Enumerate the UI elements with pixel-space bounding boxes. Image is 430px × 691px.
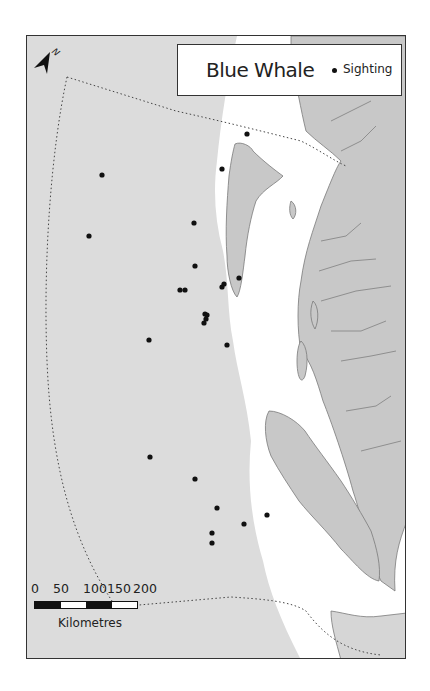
north-arrow: N: [30, 44, 64, 78]
sighting-point: [191, 220, 196, 225]
sighting-point: [201, 320, 206, 325]
map-title: Blue Whale: [206, 58, 314, 82]
map-frame: N Blue Whale Sighting 0 50 100 150 200 K…: [26, 35, 406, 659]
scale-tick-50: 50: [53, 581, 69, 596]
sighting-point: [99, 172, 104, 177]
sighting-point: [241, 521, 246, 526]
scale-tick-200: 200: [133, 581, 157, 596]
sighting-point: [192, 476, 197, 481]
sighting-point: [209, 530, 214, 535]
sighting-point: [224, 342, 229, 347]
sighting-point: [219, 166, 224, 171]
scale-segment: [35, 602, 61, 608]
scale-bar-labels: 0 50 100 150 200: [31, 581, 171, 597]
map-canvas: [27, 36, 406, 659]
sighting-point: [264, 512, 269, 517]
legend-label: Sighting: [343, 62, 392, 76]
scale-tick-150: 150: [107, 581, 131, 596]
sighting-point: [192, 263, 197, 268]
sighting-point: [214, 505, 219, 510]
sighting-point: [221, 281, 226, 286]
sighting-point: [244, 131, 249, 136]
sighting-point: [146, 337, 151, 342]
scale-segment: [112, 602, 138, 608]
svg-text:N: N: [50, 46, 62, 58]
sighting-point: [177, 287, 182, 292]
sighting-point: [236, 275, 241, 280]
sighting-point: [209, 540, 214, 545]
north-arrow-icon: N: [30, 44, 64, 78]
sighting-point: [182, 287, 187, 292]
sighting-point: [147, 454, 152, 459]
scale-bar: [34, 601, 138, 609]
legend: Blue Whale Sighting: [177, 44, 402, 96]
scale-segment: [86, 602, 112, 608]
scale-tick-100: 100: [83, 581, 107, 596]
scale-tick-0: 0: [31, 581, 39, 596]
sighting-point: [86, 233, 91, 238]
scale-segment: [61, 602, 87, 608]
scale-unit: Kilometres: [58, 616, 122, 630]
land-south: [331, 611, 406, 659]
sighting-dot-icon: [332, 68, 337, 73]
legend-item-sighting: Sighting: [332, 62, 392, 76]
